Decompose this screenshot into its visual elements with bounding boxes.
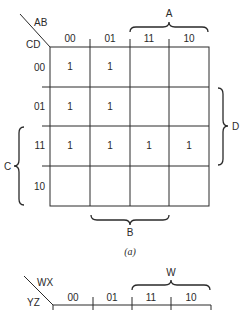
- brace-top-w: [132, 280, 210, 290]
- col-label: 00: [64, 33, 76, 44]
- caption-a: (a): [124, 246, 136, 258]
- row-variable-label: YZ: [27, 297, 40, 308]
- cell: 1: [107, 61, 113, 72]
- brace-label-c: C: [4, 161, 11, 172]
- col-label: 00: [67, 292, 79, 303]
- col-variable-label: AB: [34, 17, 48, 28]
- cell: 1: [146, 140, 152, 151]
- row-variable-label: CD: [26, 39, 40, 50]
- row-label: 10: [34, 181, 46, 192]
- col-label: 01: [106, 292, 118, 303]
- karnaugh-map-b: WX YZ 00 01 11 10 W: [24, 267, 211, 310]
- karnaugh-map-a: AB CD 00 01 11 10 00 01 11 10 1 1 1 1 1 …: [4, 8, 239, 258]
- col-variable-label: WX: [37, 277, 53, 288]
- cell: 1: [67, 101, 73, 112]
- cell: 1: [107, 140, 113, 151]
- cell: 1: [186, 140, 192, 151]
- col-label: 11: [146, 292, 157, 303]
- brace-label-d: D: [232, 121, 239, 132]
- brace-right-d: [218, 88, 228, 165]
- row-label: 00: [34, 62, 46, 73]
- row-label: 01: [34, 101, 46, 112]
- row-label: 11: [35, 140, 46, 151]
- cell: 1: [67, 61, 73, 72]
- brace-top-a: [130, 22, 208, 32]
- col-label: 10: [185, 292, 197, 303]
- brace-bottom-b: [91, 215, 169, 225]
- cell: 1: [67, 140, 73, 151]
- col-label: 11: [144, 33, 155, 44]
- brace-label-w: W: [166, 267, 176, 278]
- col-label: 10: [183, 33, 195, 44]
- brace-label-b: B: [127, 227, 134, 238]
- karnaugh-maps: AB CD 00 01 11 10 00 01 11 10 1 1 1 1 1 …: [0, 0, 243, 310]
- brace-left-c: [14, 127, 24, 205]
- brace-label-a: A: [166, 8, 173, 19]
- cell: 1: [107, 101, 113, 112]
- col-label: 01: [104, 33, 116, 44]
